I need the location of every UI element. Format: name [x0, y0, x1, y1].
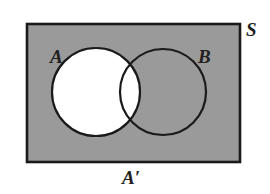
universal-set-label: S	[246, 20, 257, 39]
shaded-region-label: A′	[122, 168, 140, 187]
shaded-region-a-complement	[27, 24, 240, 162]
set-b-label: B	[198, 47, 211, 66]
set-a-label: A	[50, 47, 63, 66]
venn-diagram-figure: A B S A′	[0, 0, 270, 194]
venn-diagram-canvas	[0, 0, 270, 194]
